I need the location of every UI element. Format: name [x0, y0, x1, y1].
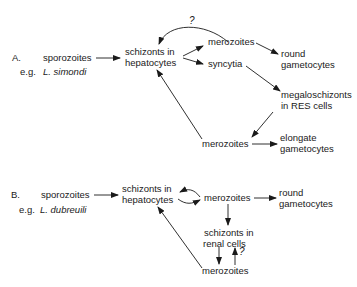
panel-a-round-line2: gametocytes: [281, 60, 335, 71]
arrow-a-merozoites-to-round: [256, 43, 278, 54]
panel-a-merozoites-top: merozoites: [208, 37, 254, 48]
panel-a-schizonts-line2: hepatocytes: [125, 58, 176, 69]
panel-b-merozoites-top: merozoites: [204, 193, 250, 204]
panel-b-example-prefix: e.g.: [19, 205, 35, 216]
arrow-b-schizonts-to-merozoites: [178, 199, 200, 203]
panel-a-elongate-line1: elongate: [280, 133, 316, 144]
panel-a-elongate-line2: gametocytes: [280, 144, 334, 155]
panel-b-round-line2: gametocytes: [279, 199, 333, 210]
panel-b-example-species: L. dubreuili: [40, 205, 86, 216]
panel-a-label: A.: [12, 53, 21, 64]
panel-b-merozoites-bottom: merozoites: [202, 266, 248, 277]
panel-a-mega-line1: megaloschizonts: [281, 90, 352, 101]
arrow-a-schizonts-to-merozoites: [183, 46, 203, 56]
arrow-b-merozoites-to-schizonts: [158, 207, 202, 268]
arrow-b-merozoites-to-schizonts: [180, 190, 200, 197]
panel-a-schizonts-line1: schizonts in: [125, 47, 175, 58]
panel-a-sporozoites: sporozoites: [43, 53, 92, 64]
arrow-a-syncytia-to-mega: [246, 66, 280, 91]
arrow-a-merozoites-to-schizonts: [157, 70, 202, 139]
panel-b-renal-line1: schizonts in: [204, 228, 254, 239]
panel-a-merozoites-bottom: merozoites: [202, 139, 248, 150]
panel-a-mega-line2: in RES cells: [281, 101, 332, 112]
arrow-a-mega-to-merozoites: [252, 112, 273, 137]
panel-b-uncertain-mark: ?: [239, 247, 245, 258]
panel-a-example-prefix: e.g.: [20, 67, 36, 78]
panel-b-label: B.: [11, 190, 20, 201]
panel-a-syncytia: syncytia: [208, 59, 242, 70]
panel-b-sporozoites: sporozoites: [41, 190, 90, 201]
panel-b-schizonts-line2: hepatocytes: [122, 195, 173, 206]
panel-a-example-species: L. simondi: [43, 67, 86, 78]
panel-b-schizonts-line1: schizonts in: [122, 184, 172, 195]
life-cycle-diagram: A. sporozoites e.g. L. simondi schizonts…: [0, 0, 357, 287]
panel-a-uncertain-mark: ?: [189, 16, 195, 27]
panel-b-round-line1: round: [279, 188, 303, 199]
arrow-a-schizonts-to-syncytia: [183, 58, 203, 64]
panel-a-round-line1: round: [281, 49, 305, 60]
